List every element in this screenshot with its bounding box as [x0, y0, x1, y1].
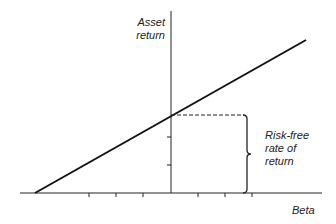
risk-free-label-line1: Risk-free	[265, 129, 309, 142]
risk-free-label: Risk-free rate of return	[265, 129, 309, 168]
y-ticks	[167, 137, 171, 165]
y-axis-label-line2: return	[133, 29, 165, 42]
capm-diagram: Asset return Beta Risk-free rate of retu…	[0, 0, 336, 224]
x-ticks	[89, 193, 252, 197]
x-axis-label: Beta	[292, 204, 315, 217]
y-axis-label: Asset return	[133, 16, 165, 42]
risk-free-label-line2: rate of	[265, 142, 309, 155]
y-axis-label-line1: Asset	[133, 16, 165, 29]
diagram-canvas	[0, 0, 336, 224]
risk-free-label-line3: return	[265, 155, 309, 168]
curly-brace	[243, 115, 251, 193]
